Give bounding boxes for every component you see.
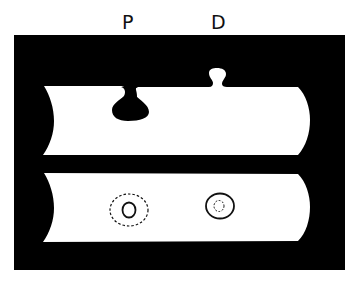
diagram-figure [0,0,359,284]
bottom-tube [43,173,310,242]
